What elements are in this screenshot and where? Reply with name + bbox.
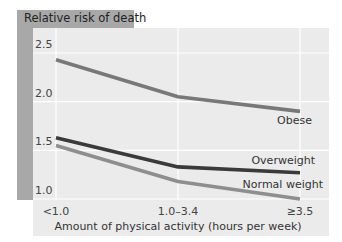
series-label-overweight: Overweight	[251, 154, 315, 167]
x-tick-label: ≥3.5	[287, 205, 314, 218]
series-label-normal-weight: Normal weight	[243, 178, 323, 191]
series-label-obese: Obese	[277, 114, 312, 127]
x-axis-label: Amount of physical activity (hours per w…	[54, 220, 301, 233]
x-tick-label: 1.0–3.4	[158, 205, 199, 218]
y-tick-label: 1.5	[35, 135, 53, 148]
y-tick-label: 1.0	[35, 184, 53, 197]
x-tick-label: <1.0	[43, 205, 70, 218]
y-tick-label: 2.5	[35, 38, 53, 51]
y-tick-label: 2.0	[35, 87, 53, 100]
